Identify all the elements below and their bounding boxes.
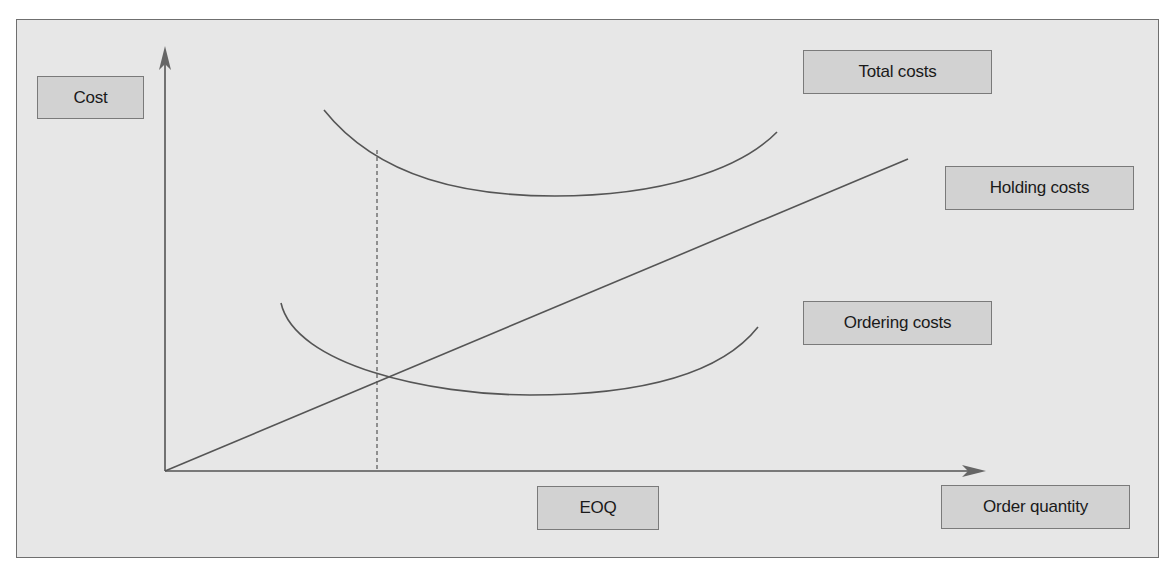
holding-costs-line — [165, 159, 908, 471]
x-axis — [165, 465, 986, 477]
ordering-costs-curve — [281, 303, 758, 395]
eoq-label: EOQ — [537, 486, 659, 530]
total-costs-label: Total costs — [803, 50, 992, 94]
cost-axis-label: Cost — [37, 76, 144, 119]
holding-costs-label: Holding costs — [945, 166, 1134, 210]
order-quantity-axis-label: Order quantity — [941, 485, 1130, 529]
ordering-costs-label: Ordering costs — [803, 301, 992, 345]
y-axis — [159, 46, 171, 471]
total-costs-curve — [324, 110, 777, 196]
